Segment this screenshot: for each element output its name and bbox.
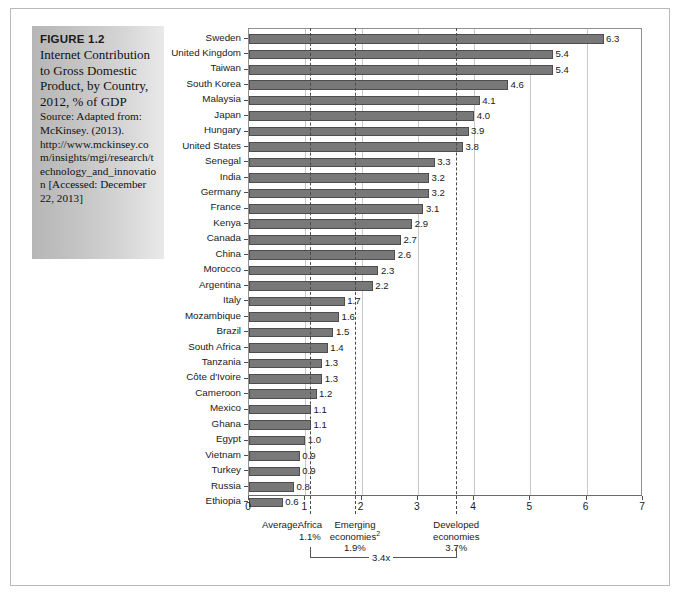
y-axis-tick <box>244 38 248 39</box>
category-label: Vietnam <box>91 449 241 461</box>
bar[interactable] <box>249 328 333 338</box>
bar[interactable] <box>249 266 378 276</box>
bar-row[interactable]: 3.2 <box>249 186 643 201</box>
bar-row[interactable]: 2.7 <box>249 232 643 247</box>
category-label: Côte d'Ivoire <box>91 371 241 383</box>
bar-row[interactable]: 1.3 <box>249 356 643 371</box>
bar-row[interactable]: 2.2 <box>249 279 643 294</box>
bar[interactable] <box>249 127 469 137</box>
bar-value-label: 4.1 <box>482 95 495 107</box>
y-axis-tick <box>244 146 248 147</box>
bar-row[interactable]: 2.3 <box>249 263 643 278</box>
bar[interactable] <box>249 96 480 106</box>
x-axis-tick-label: 2 <box>349 501 373 513</box>
bar[interactable] <box>249 34 604 44</box>
bar[interactable] <box>249 173 429 183</box>
bar-row[interactable]: 3.2 <box>249 171 643 186</box>
category-label: Ghana <box>91 418 241 430</box>
bar[interactable] <box>249 158 435 168</box>
bar-row[interactable]: 0.9 <box>249 449 643 464</box>
category-label: Tanzania <box>91 356 241 368</box>
bar[interactable] <box>249 189 429 199</box>
x-axis-tick-label: 0 <box>236 501 260 513</box>
bar[interactable] <box>249 80 508 90</box>
category-label: Sweden <box>91 32 241 44</box>
category-label: Malaysia <box>91 93 241 105</box>
bar[interactable] <box>249 467 300 477</box>
y-axis-tick <box>244 131 248 132</box>
bar-row[interactable]: 2.9 <box>249 217 643 232</box>
y-axis-tick <box>244 223 248 224</box>
category-label: Cameroon <box>91 387 241 399</box>
bar[interactable] <box>249 219 412 229</box>
bar[interactable] <box>249 204 423 214</box>
y-axis-tick <box>244 161 248 162</box>
bar[interactable] <box>249 297 345 307</box>
bar-row[interactable]: 6.3 <box>249 32 643 47</box>
bar[interactable] <box>249 50 553 60</box>
bar-row[interactable]: 3.9 <box>249 124 643 139</box>
bar-row[interactable]: 1.7 <box>249 294 643 309</box>
category-label: Morocco <box>91 263 241 275</box>
bar[interactable] <box>249 374 322 384</box>
bar-row[interactable]: 1.6 <box>249 310 643 325</box>
bar-row[interactable]: 0.8 <box>249 480 643 495</box>
bar-row[interactable]: 3.8 <box>249 140 643 155</box>
bar[interactable] <box>249 65 553 75</box>
bar[interactable] <box>249 389 317 399</box>
category-label: Mozambique <box>91 310 241 322</box>
y-axis-tick <box>244 424 248 425</box>
bar-value-label: 2.2 <box>375 280 388 292</box>
bar[interactable] <box>249 312 339 322</box>
bar-row[interactable]: 1.2 <box>249 387 643 402</box>
y-axis-tick <box>244 270 248 271</box>
y-axis-tick <box>244 69 248 70</box>
bar[interactable] <box>249 359 322 369</box>
bar-value-label: 3.2 <box>432 172 445 184</box>
bar-value-label: 1.4 <box>330 342 343 354</box>
x-axis-tick-label: 7 <box>630 501 654 513</box>
bar-row[interactable]: 4.0 <box>249 109 643 124</box>
category-label: Brazil <box>91 325 241 337</box>
bar[interactable] <box>249 436 305 446</box>
bar-row[interactable]: 5.4 <box>249 62 643 77</box>
bar[interactable] <box>249 405 311 415</box>
bar-row[interactable]: 1.1 <box>249 402 643 417</box>
bracket-tick-left <box>310 547 311 558</box>
bar[interactable] <box>249 420 311 430</box>
bar[interactable] <box>249 451 300 461</box>
bar-value-label: 1.1 <box>313 419 326 431</box>
plot-area: 6.35.45.44.64.14.03.93.83.33.23.23.12.92… <box>248 28 642 496</box>
x-axis-tick <box>248 496 249 500</box>
bar-row[interactable]: 1.1 <box>249 418 643 433</box>
bar-row[interactable]: 1.0 <box>249 433 643 448</box>
bracket-label: 3.4x <box>369 552 393 563</box>
bar[interactable] <box>249 111 474 121</box>
y-axis-tick <box>244 53 248 54</box>
bar-row[interactable]: 4.1 <box>249 93 643 108</box>
bar[interactable] <box>249 250 395 260</box>
bar[interactable] <box>249 235 401 245</box>
bar-row[interactable]: 2.6 <box>249 248 643 263</box>
y-axis-tick <box>244 362 248 363</box>
y-axis-tick <box>244 285 248 286</box>
x-axis-tick <box>417 496 418 500</box>
bar-row[interactable]: 1.4 <box>249 341 643 356</box>
bar-row[interactable]: 4.6 <box>249 78 643 93</box>
bar-value-label: 1.7 <box>347 295 360 307</box>
figure-frame: FIGURE 1.2 Internet Contribution to Gros… <box>10 8 670 586</box>
reference-line-developed-economies <box>456 28 457 514</box>
bar-row[interactable]: 1.5 <box>249 325 643 340</box>
category-label: China <box>91 248 241 260</box>
bar[interactable] <box>249 142 463 152</box>
bar[interactable] <box>249 482 294 492</box>
y-axis-tick <box>244 115 248 116</box>
bar-row[interactable]: 1.3 <box>249 371 643 386</box>
x-axis-tick-label: 5 <box>517 501 541 513</box>
bar[interactable] <box>249 343 328 353</box>
bar-row[interactable]: 0.9 <box>249 464 643 479</box>
bar-value-label: 3.3 <box>437 156 450 168</box>
bar-row[interactable]: 3.1 <box>249 201 643 216</box>
bar-row[interactable]: 5.4 <box>249 47 643 62</box>
bar-row[interactable]: 3.3 <box>249 155 643 170</box>
